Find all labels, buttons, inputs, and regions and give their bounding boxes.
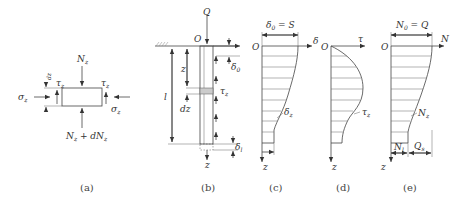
label-Nl: Nl	[393, 142, 404, 153]
caption-b: (b)	[201, 182, 215, 193]
label-Nz-curve: Nz	[417, 108, 430, 119]
label-z-depth: z	[180, 64, 186, 74]
label-delta-z-curve: δz	[284, 107, 293, 118]
panel-a-element-equilibrium: Nz Nz + dNz τz τz σz σz dz (a)	[18, 54, 130, 193]
shear-curve	[331, 46, 363, 143]
panel-d-shear-diagram: O τ z τz (d)	[321, 34, 371, 193]
label-Nz-plus-dNz: Nz + dNz	[65, 131, 108, 142]
label-Nz-top: Nz	[76, 54, 89, 65]
label-z-pile: z	[204, 160, 210, 170]
label-tau-left: τz	[56, 78, 65, 89]
label-N-axis: N	[440, 34, 450, 44]
displacement-curve	[262, 46, 298, 143]
label-sigma-left: σz	[18, 92, 28, 103]
panel-b-pile: Q O z l z dz τz	[155, 7, 242, 193]
label-z-c: z	[262, 162, 268, 172]
pile-load-transfer-figure: Nz Nz + dNz τz τz σz σz dz (a) Q O z	[0, 0, 462, 210]
label-dz-pile: dz	[180, 104, 191, 114]
label-z-d: z	[331, 162, 337, 172]
label-tau-axis: τ	[358, 34, 364, 44]
soil-element-box	[62, 88, 102, 106]
pile-tip-displaced	[200, 144, 213, 150]
caption-a: (a)	[80, 182, 94, 193]
caption-d: (d)	[336, 182, 350, 193]
ground-hatch	[156, 42, 168, 46]
label-delta0: δ0	[231, 62, 240, 73]
pile-element-dz	[200, 88, 213, 94]
displacement-hatching	[262, 56, 297, 132]
label-l: l	[164, 92, 167, 102]
axial-force-curve	[391, 46, 432, 143]
label-tau-pile: τz	[220, 86, 229, 97]
label-O-pile: O	[194, 34, 202, 44]
label-O-d: O	[321, 42, 329, 52]
label-z-e: z	[380, 162, 386, 172]
panel-e-axial-force-diagram: N0 = Q O N z Nz Nl Qs (e)	[380, 20, 450, 193]
label-delta-axis: δ	[313, 36, 318, 46]
label-Q: Q	[203, 7, 211, 17]
label-N0-eq-Q: N0 = Q	[395, 20, 429, 31]
panel-c-displacement-diagram: δ0 = S O δ z δz (c)	[252, 20, 318, 193]
label-tau-right: τz	[101, 78, 110, 89]
shear-hatching	[331, 56, 363, 132]
label-Qs: Qs	[414, 141, 424, 152]
label-sigma-right: σz	[111, 104, 121, 115]
label-O-c: O	[252, 42, 260, 52]
label-O-e: O	[381, 42, 389, 52]
label-delta0-eq-S: δ0 = S	[266, 20, 295, 31]
label-dz: dz	[45, 72, 52, 80]
label-delta-l: δl	[235, 142, 242, 153]
caption-c: (c)	[269, 182, 283, 193]
pile-shaft	[200, 46, 213, 144]
label-tau-z-curve: τz	[362, 107, 371, 118]
caption-e: (e)	[403, 182, 417, 193]
